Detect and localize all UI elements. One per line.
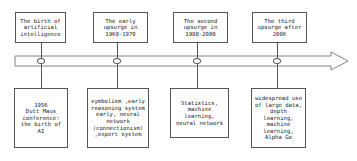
connector-bottom-3 <box>197 64 198 88</box>
connector-bottom-2 <box>117 64 118 88</box>
connector-top-2 <box>117 43 118 58</box>
milestone-marker-1 <box>37 58 45 64</box>
detail-box-3: Statistics, machine learning, neural net… <box>170 88 229 138</box>
period-box-3: The second upsurge in 1980-2000 <box>173 12 228 43</box>
detail-box-4: widespread use of large data, depth lear… <box>251 88 306 148</box>
detail-box-2: symbolism ,early reasoning system early,… <box>87 88 149 148</box>
period-box-2: The early upsurge in 1960-1970 <box>93 12 148 43</box>
period-box-1: The birth of artificial intelligence <box>15 12 66 43</box>
connector-top-3 <box>197 43 198 58</box>
connector-bottom-4 <box>277 64 278 88</box>
connector-bottom-1 <box>41 64 42 88</box>
detail-box-1: 1956 Dutt Maus conference: the birth of … <box>14 88 68 148</box>
milestone-marker-4 <box>273 58 281 64</box>
connector-top-4 <box>277 43 278 58</box>
connector-top-1 <box>41 43 42 58</box>
milestone-marker-3 <box>193 58 201 64</box>
period-box-4: The third upsurge after 2006 <box>252 12 307 43</box>
milestone-marker-2 <box>113 58 121 64</box>
